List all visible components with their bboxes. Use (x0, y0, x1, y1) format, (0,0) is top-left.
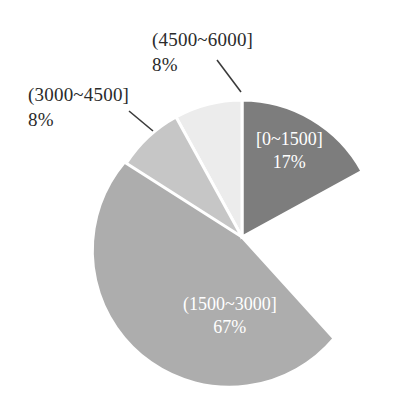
pie-label-3000-4500-percent: 8% (28, 108, 129, 132)
pie-label-0-1500-percent: 17% (256, 151, 323, 174)
pie-label-1500-3000-category: (1500~3000] (183, 294, 277, 314)
pie-label-0-1500: [0~1500] 17% (256, 128, 323, 175)
leader-line-3000-4500 (129, 111, 153, 131)
pie-label-4500-6000-percent: 8% (152, 53, 253, 77)
pie-label-0-1500-category: [0~1500] (256, 129, 323, 149)
pie-label-4500-6000: (4500~6000] 8% (152, 28, 253, 77)
pie-label-1500-3000: (1500~3000] 67% (183, 293, 277, 340)
pie-chart-figure: (4500~6000] 8% (3000~4500] 8% [0~1500] 1… (0, 0, 417, 408)
pie-label-1500-3000-percent: 67% (183, 316, 277, 339)
pie-label-3000-4500: (3000~4500] 8% (28, 83, 129, 132)
pie-label-3000-4500-category: (3000~4500] (28, 84, 129, 105)
pie-label-4500-6000-category: (4500~6000] (152, 29, 253, 50)
